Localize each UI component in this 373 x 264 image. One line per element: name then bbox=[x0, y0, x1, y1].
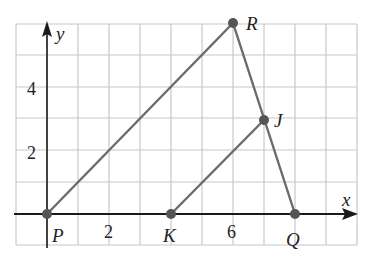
label-Q: Q bbox=[286, 229, 300, 250]
label-K: K bbox=[162, 225, 177, 246]
segment-KJ bbox=[171, 120, 264, 214]
point-K bbox=[166, 209, 176, 219]
x-tick-6: 6 bbox=[227, 222, 236, 242]
y-axis-label: y bbox=[54, 23, 65, 44]
point-J bbox=[259, 115, 269, 125]
label-P: P bbox=[51, 225, 64, 246]
label-R: R bbox=[245, 13, 258, 34]
x-tick-2: 2 bbox=[104, 222, 113, 242]
y-tick-4: 4 bbox=[27, 79, 36, 99]
x-axis-label: x bbox=[341, 189, 351, 210]
grid bbox=[16, 24, 357, 245]
label-J: J bbox=[274, 110, 284, 131]
point-R bbox=[228, 18, 238, 28]
coordinate-plane: P K Q R J x y 2 6 2 4 bbox=[0, 0, 373, 264]
y-tick-2: 2 bbox=[27, 143, 36, 163]
point-P bbox=[42, 209, 52, 219]
point-Q bbox=[290, 209, 300, 219]
